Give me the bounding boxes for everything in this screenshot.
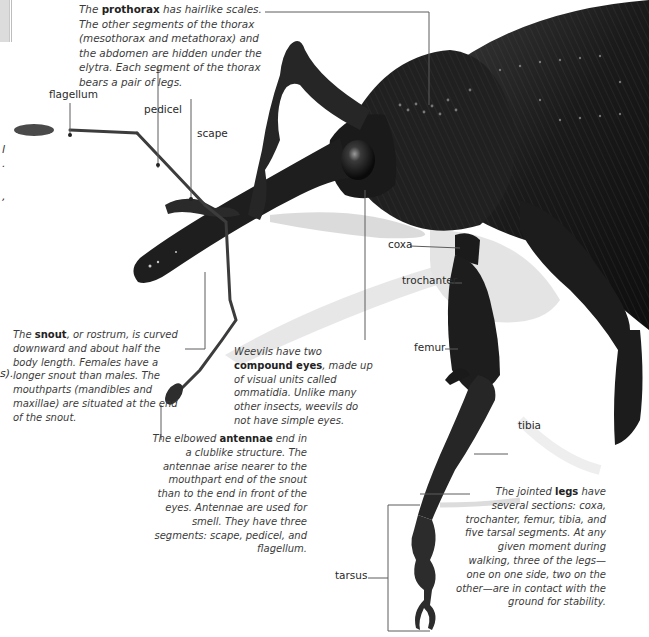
caption-legs: The jointed legs have several sections: … <box>456 485 606 609</box>
term-compound-eyes: compound eyes <box>234 360 322 371</box>
term-antennae: antennae <box>219 433 272 444</box>
label-flagellum: flagellum <box>49 88 98 100</box>
label-femur: femur <box>414 341 445 353</box>
antenna-club-upper <box>14 124 54 136</box>
label-tibia: tibia <box>518 419 541 431</box>
compound-eye <box>341 140 375 180</box>
caption-prothorax: The prothorax has hairlike scales. The o… <box>79 2 269 90</box>
label-scape: scape <box>197 127 228 139</box>
caption-compound-eyes: Weevils have two compound eyes, made up … <box>234 345 374 428</box>
term-legs: legs <box>555 486 578 497</box>
caption-snout: The snout, or rostrum, is curved downwar… <box>13 328 183 425</box>
leg-tarsus <box>411 515 435 630</box>
term-prothorax: prothorax <box>102 3 160 15</box>
label-tarsus: tarsus <box>335 569 367 581</box>
label-pedicel: pedicel <box>144 103 182 115</box>
label-coxa: coxa <box>388 238 413 250</box>
term-snout: snout <box>35 329 67 340</box>
label-trochanter: trochanter <box>402 274 457 286</box>
snout <box>133 138 350 283</box>
caption-antennae: The elbowed antennae end in a clublike s… <box>145 432 307 556</box>
